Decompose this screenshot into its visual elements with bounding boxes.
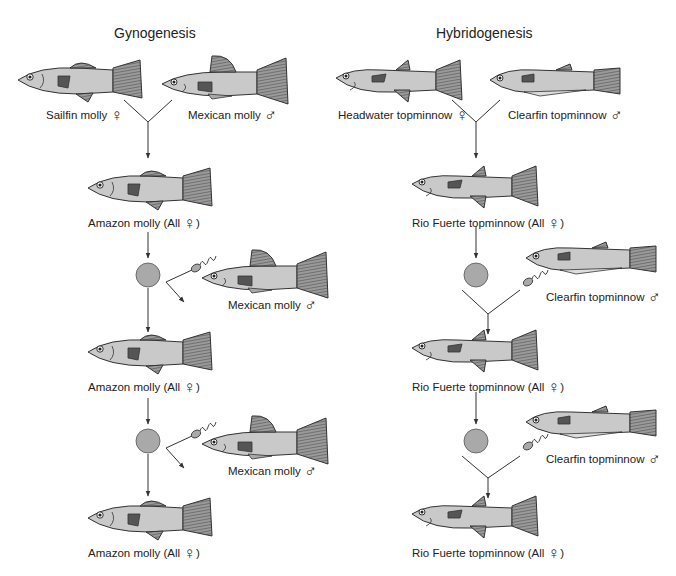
sperm-contact-2	[166, 436, 192, 448]
sperm-deflect-arrow-2	[166, 448, 184, 468]
amazon-molly-label-3: Amazon molly (All ♀)	[88, 544, 200, 564]
sailfin-molly-fish	[18, 60, 142, 102]
sperm-contact-1	[166, 270, 192, 282]
gynogenesis-title: Gynogenesis	[114, 25, 196, 41]
rio-fuerte-label-3: Rio Fuerte topminnow (All ♀)	[412, 544, 564, 564]
merge-line-left	[124, 100, 148, 122]
sperm-icon-h1	[522, 270, 548, 288]
male-symbol-icon: ♂	[304, 462, 317, 481]
merge-line-right-h	[476, 100, 500, 122]
merge-h2-left	[462, 456, 488, 478]
clearfin-donor-label-1: Clearfin topminnow ♂	[546, 288, 660, 308]
amazon-molly-fish-1	[88, 168, 212, 210]
sailfin-molly-label: Sailfin molly ♀	[46, 106, 123, 126]
rio-fuerte-fish-3	[412, 496, 538, 538]
egg-h2	[464, 429, 488, 453]
merge-h1-left	[462, 290, 488, 314]
clearfin-donor-fish-1	[526, 242, 656, 274]
mexican-molly-fish	[162, 56, 288, 104]
merge-line-right	[148, 100, 172, 122]
amazon-molly-fish-3	[88, 498, 212, 540]
clearfin-donor-label-2: Clearfin topminnow ♂	[546, 450, 660, 470]
male-symbol-icon: ♂	[304, 296, 317, 315]
sperm-deflect-arrow-1	[166, 282, 184, 302]
rio-fuerte-fish-1	[412, 166, 538, 208]
headwater-topminnow-fish	[336, 60, 462, 102]
mexican-molly-donor-fish-1	[202, 250, 328, 298]
female-symbol-icon: ♀	[183, 378, 196, 397]
clearfin-topminnow-label: Clearfin topminnow ♂	[508, 106, 622, 126]
amazon-molly-fish-2	[88, 332, 212, 374]
merge-h1-right	[488, 290, 520, 314]
female-symbol-icon: ♀	[548, 378, 561, 397]
clearfin-topminnow-fish	[490, 64, 620, 96]
mexican-molly-donor-label-1: Mexican molly ♂	[228, 296, 317, 316]
sperm-icon-h2	[522, 434, 548, 452]
egg-2	[136, 429, 160, 453]
female-symbol-icon: ♀	[183, 544, 196, 563]
mexican-molly-donor-fish-2	[202, 416, 328, 464]
male-symbol-icon: ♂	[648, 288, 661, 307]
female-symbol-icon: ♀	[548, 214, 561, 233]
male-symbol-icon: ♂	[610, 106, 623, 125]
female-symbol-icon: ♀	[456, 106, 469, 125]
rio-fuerte-label-2: Rio Fuerte topminnow (All ♀)	[412, 378, 564, 398]
egg-h1	[464, 263, 488, 287]
sperm-icon-1	[190, 256, 216, 274]
clearfin-donor-fish-2	[526, 406, 656, 438]
hybridogenesis-title: Hybridogenesis	[436, 25, 533, 41]
male-symbol-icon: ♂	[648, 450, 661, 469]
male-symbol-icon: ♂	[264, 106, 277, 125]
amazon-molly-label-1: Amazon molly (All ♀)	[88, 214, 200, 234]
egg-1	[136, 263, 160, 287]
rio-fuerte-label-1: Rio Fuerte topminnow (All ♀)	[412, 214, 564, 234]
female-symbol-icon: ♀	[183, 214, 196, 233]
headwater-topminnow-label: Headwater topminnow ♀	[338, 106, 468, 126]
mexican-molly-label: Mexican molly ♂	[188, 106, 277, 126]
mexican-molly-donor-label-2: Mexican molly ♂	[228, 462, 317, 482]
sperm-icon-2	[190, 422, 216, 440]
female-symbol-icon: ♀	[548, 544, 561, 563]
rio-fuerte-fish-2	[412, 330, 538, 372]
amazon-molly-label-2: Amazon molly (All ♀)	[88, 378, 200, 398]
female-symbol-icon: ♀	[111, 106, 124, 125]
merge-h2-right	[488, 456, 520, 478]
